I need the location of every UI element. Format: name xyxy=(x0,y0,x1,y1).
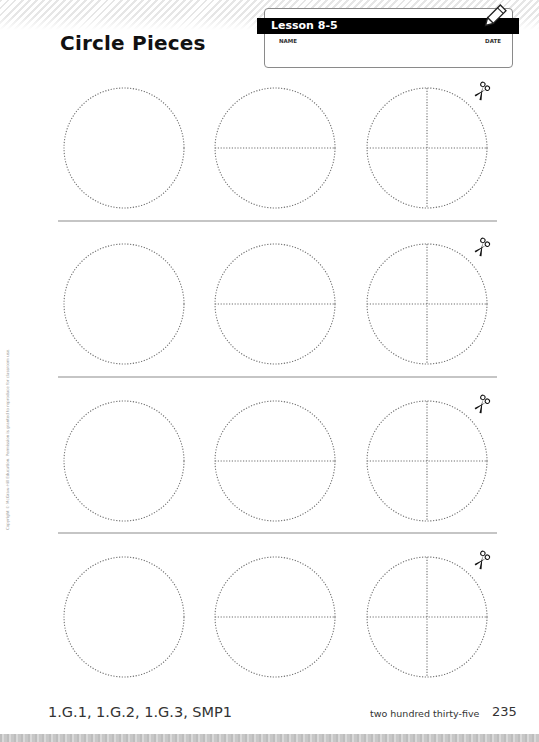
bottom-hatch-band xyxy=(0,734,539,742)
scissors-icon xyxy=(474,394,491,415)
circle-piece-whole[interactable] xyxy=(64,557,184,677)
page-number: 235 xyxy=(492,704,517,719)
scissors-icon xyxy=(474,81,491,102)
circle-piece-fourths[interactable] xyxy=(367,401,487,521)
circle-piece-whole[interactable] xyxy=(64,401,184,521)
circle-piece-fourths[interactable] xyxy=(367,244,487,364)
scissors-icon xyxy=(474,237,491,258)
circle-piece-halves[interactable] xyxy=(215,244,335,364)
circle-piece-whole[interactable] xyxy=(64,244,184,364)
copyright-note: Copyright © McGraw-Hill Education. Permi… xyxy=(5,348,10,530)
standards-label: 1.G.1, 1.G.2, 1.G.3, SMP1 xyxy=(48,704,232,720)
circle-piece-halves[interactable] xyxy=(215,401,335,521)
circle-piece-fourths[interactable] xyxy=(367,557,487,677)
circle-piece-halves[interactable] xyxy=(215,88,335,208)
circle-piece-fourths[interactable] xyxy=(367,88,487,208)
circle-pieces-sheet xyxy=(0,0,539,742)
page-number-words: two hundred thirty-five xyxy=(370,708,479,719)
circle-piece-whole[interactable] xyxy=(64,88,184,208)
scissors-icon xyxy=(474,550,491,571)
circle-piece-halves[interactable] xyxy=(215,557,335,677)
